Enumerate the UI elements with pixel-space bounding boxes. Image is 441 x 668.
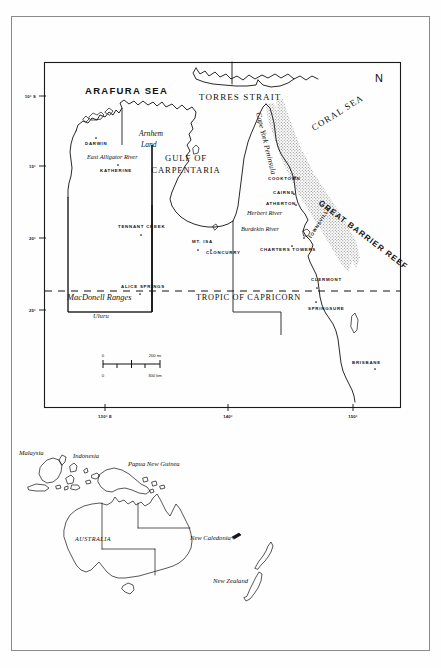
- longitude-label-150: 150°: [348, 414, 358, 419]
- label-burdekin-river: Burdekin River: [241, 225, 280, 232]
- dot-springsure: [315, 301, 317, 303]
- scale-km-zero: 0: [102, 373, 105, 378]
- label-indonesia: Indonesia: [72, 452, 100, 459]
- dot-alice-springs: [139, 293, 141, 295]
- latitude-label-20: 20°: [29, 236, 36, 241]
- label-mount-isa: MT. ISA: [192, 239, 213, 244]
- label-torres-strait: TORRES STRAIT: [199, 92, 281, 102]
- dot-brisbane: [374, 368, 376, 370]
- map-figure: 10° S 15° 20° 25° 130° E 140° 150° N ARA…: [0, 0, 441, 668]
- label-springsure: SPRINGSURE: [308, 306, 345, 311]
- latitude-label-15: 15°: [29, 164, 36, 169]
- dot-clermont: [316, 287, 318, 289]
- scale-miles-zero: 0: [102, 353, 105, 358]
- scale-km-max: 300 km: [148, 373, 162, 378]
- label-papua-new-guinea: Papua New Guinea: [127, 460, 180, 467]
- longitude-label-140: 140°: [223, 414, 233, 419]
- label-gulf-of-carpentaria-line2: CARPENTARIA: [151, 165, 220, 175]
- dot-darwin: [95, 137, 97, 139]
- compass-north-label: N: [375, 72, 383, 84]
- label-new-zealand: New Zealand: [212, 577, 249, 584]
- label-arnhem-land-line2: Land: [140, 140, 157, 149]
- dot-mount-isa: [197, 249, 199, 251]
- label-atherton: ATHERTON: [266, 201, 296, 206]
- label-gulf-of-carpentaria-line1: GULF OF: [165, 153, 207, 163]
- label-alice-springs: ALICE SPRINGS: [121, 284, 165, 289]
- dot-tennant-creek: [140, 234, 142, 236]
- latitude-label-25: 25°: [29, 308, 36, 313]
- label-arnhem-land-line1: Arnhem: [138, 129, 164, 138]
- dot-cooktown: [294, 176, 296, 178]
- dot-townsville: [303, 237, 305, 239]
- label-brisbane: BRISBANE: [352, 360, 381, 365]
- dot-atherton: [295, 204, 297, 206]
- scale-miles-max: 200 mi: [149, 353, 162, 358]
- latitude-label-10s: 10° S: [25, 94, 36, 99]
- label-coral-sea: CORAL SEA: [310, 93, 366, 133]
- label-clermont: CLERMONT: [311, 277, 342, 282]
- label-macdonnell-ranges: MacDonell Ranges: [66, 293, 131, 302]
- dot-charters-towers: [291, 245, 293, 247]
- label-katherine: KATHERINE: [100, 168, 132, 173]
- dot-katherine: [117, 164, 119, 166]
- longitude-label-130e: 130° E: [98, 414, 112, 419]
- label-arafura-sea: ARAFURA SEA: [85, 85, 168, 96]
- label-australia: AUSTRALIA: [74, 535, 111, 542]
- label-herbert-river: Herbert River: [246, 209, 283, 216]
- label-tropic-of-capricorn: TROPIC OF CAPRICORN: [196, 293, 301, 302]
- scale-bar: 0 200 mi 0 300 km: [102, 353, 163, 378]
- dot-cloncurry: [210, 249, 212, 251]
- label-charters-towers: CHARTERS TOWERS: [260, 247, 316, 252]
- label-uluru: Uluru: [93, 312, 109, 319]
- label-tennant-creek: TENNANT CREEK: [118, 224, 165, 229]
- page-border: [12, 17, 430, 651]
- label-darwin: DARWIN: [85, 141, 107, 146]
- figure-page: 10° S 15° 20° 25° 130° E 140° 150° N ARA…: [0, 0, 441, 668]
- label-cairns: CAIRNS: [273, 190, 294, 195]
- label-east-alligator-river: East Alligator River: [86, 153, 138, 160]
- label-new-caledonia: New Caledonia: [189, 534, 232, 541]
- label-malaysia: Malaysia: [18, 449, 44, 456]
- dot-cairns: [293, 193, 295, 195]
